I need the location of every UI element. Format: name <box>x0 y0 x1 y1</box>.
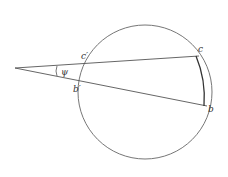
label-b: b <box>208 104 214 114</box>
label-angle-psi: ψ <box>61 67 69 77</box>
arc-cb <box>196 56 204 106</box>
circle <box>78 25 212 159</box>
angle-arc <box>56 66 57 76</box>
lower-secant-line <box>15 68 207 106</box>
label-b-prime: b′ <box>73 84 81 94</box>
label-c: c <box>198 44 203 54</box>
upper-secant-line <box>15 56 199 68</box>
label-c-prime: c′ <box>81 51 88 61</box>
diagram-canvas: c′ c b′ b ψ <box>0 0 228 177</box>
